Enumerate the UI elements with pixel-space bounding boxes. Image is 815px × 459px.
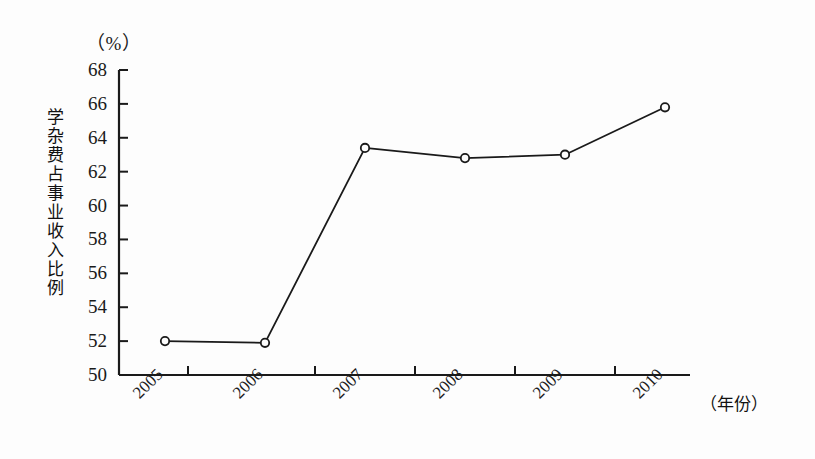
data-point-marker xyxy=(461,154,469,162)
plot-area xyxy=(0,0,815,459)
axis-lines xyxy=(119,70,690,375)
data-point-markers xyxy=(161,103,669,347)
data-point-marker xyxy=(261,339,269,347)
data-point-marker xyxy=(161,337,169,345)
chart-figure: （%） 学杂费占事业收入比例 50525456586062646668 2005… xyxy=(0,0,815,459)
data-line xyxy=(165,107,665,343)
y-axis-ticks xyxy=(119,70,128,341)
data-point-marker xyxy=(361,144,369,152)
data-point-marker xyxy=(561,151,569,159)
data-point-marker xyxy=(661,103,669,111)
x-axis-ticks xyxy=(188,366,615,375)
